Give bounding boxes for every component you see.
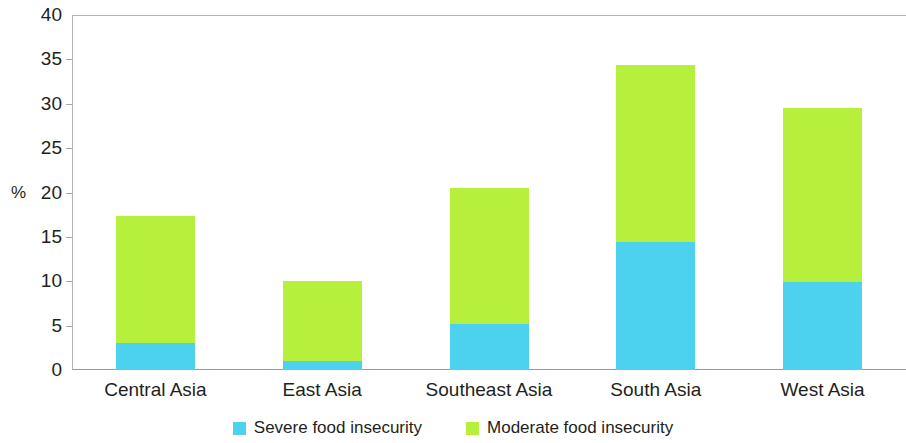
- legend-swatch-icon: [466, 422, 479, 435]
- legend-swatch-icon: [233, 422, 246, 435]
- x-tick-label: East Asia: [239, 379, 406, 401]
- bar-stack: [783, 108, 862, 370]
- bar-segment-moderate: [616, 65, 695, 243]
- bar-segment-moderate: [450, 188, 529, 324]
- stacked-bar-chart: % 4035302520151050 Central AsiaEast Asia…: [0, 0, 906, 443]
- legend-label: Moderate food insecurity: [487, 419, 673, 437]
- x-tick-label: Southeast Asia: [406, 379, 573, 401]
- x-tick-label: Central Asia: [72, 379, 239, 401]
- bar-segment-moderate: [783, 108, 862, 282]
- legend-item: Severe food insecurity: [233, 419, 422, 437]
- bar-segment-severe: [116, 343, 195, 370]
- bars-layer: [0, 0, 906, 443]
- bar-segment-severe: [450, 324, 529, 370]
- bar-segment-severe: [783, 282, 862, 370]
- bar-stack: [116, 216, 195, 370]
- chart-legend: Severe food insecurityModerate food inse…: [0, 419, 906, 437]
- legend-label: Severe food insecurity: [254, 419, 422, 437]
- bar-segment-moderate: [116, 216, 195, 343]
- x-tick-label: West Asia: [739, 379, 906, 401]
- bar-segment-severe: [616, 242, 695, 370]
- x-tick-label: South Asia: [572, 379, 739, 401]
- bar-segment-severe: [283, 361, 362, 370]
- legend-item: Moderate food insecurity: [466, 419, 673, 437]
- bar-stack: [450, 188, 529, 370]
- bar-stack: [283, 281, 362, 370]
- bar-segment-moderate: [283, 281, 362, 361]
- bar-stack: [616, 65, 695, 370]
